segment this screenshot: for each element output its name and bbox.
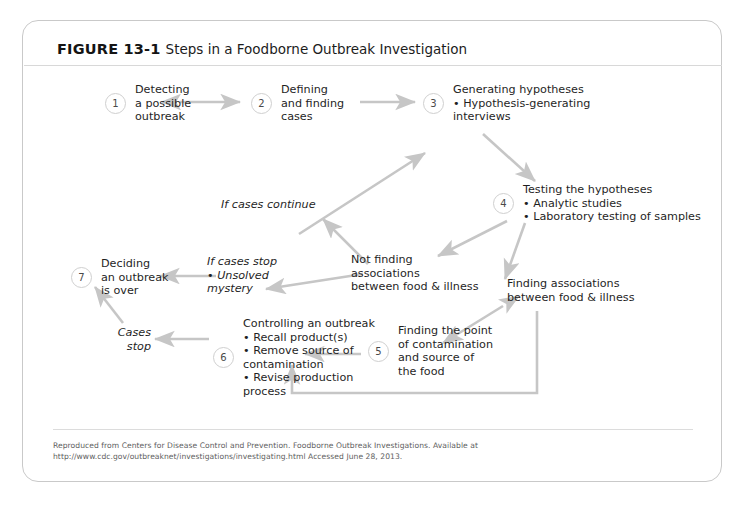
node-2[interactable]: 2 Defining and finding cases [251, 83, 344, 124]
node-4-number: 4 [493, 193, 514, 214]
node-3-label: Generating hypotheses • Hypothesis-gener… [453, 83, 590, 124]
node-1-number: 1 [105, 93, 126, 114]
flowchart-diagram: 1 Detecting a possible outbreak 2 Defini… [23, 21, 723, 483]
label-if-cases-continue: If cases continue [221, 198, 316, 212]
node-1-label: Detecting a possible outbreak [135, 83, 191, 124]
figure-panel: FIGURE 13-1Steps in a Foodborne Outbreak… [22, 20, 722, 482]
node-6[interactable]: 6 Controlling an outbreak • Recall produ… [213, 317, 375, 399]
node-3[interactable]: 3 Generating hypotheses • Hypothesis-gen… [423, 83, 590, 124]
edge-continue-3 [299, 153, 425, 234]
node-5[interactable]: 5 Finding the point of contamination and… [368, 324, 493, 378]
node-6-label: Controlling an outbreak • Recall product… [243, 317, 375, 399]
node-6-number: 6 [213, 347, 234, 368]
node-7[interactable]: 7 Deciding an outbreak is over [71, 257, 169, 298]
edge-4-finding [505, 223, 525, 279]
node-2-label: Defining and finding cases [281, 83, 344, 124]
node-7-number: 7 [71, 267, 92, 288]
figure-source-citation: Reproduced from Centers for Disease Cont… [53, 440, 701, 462]
node-7-label: Deciding an outbreak is over [101, 257, 169, 298]
node-4-label: Testing the hypotheses • Analytic studie… [523, 183, 701, 224]
label-finding-associations: Finding associations between food & illn… [507, 277, 634, 304]
edge-4-not-finding [438, 221, 507, 256]
label-not-finding-associations: Not finding associations between food & … [351, 253, 478, 294]
edge-3-4 [483, 134, 535, 181]
node-3-number: 3 [423, 93, 444, 114]
footer-divider [53, 429, 693, 430]
node-5-label: Finding the point of contamination and s… [398, 324, 493, 378]
label-if-cases-stop: If cases stop • Unsolved mystery [207, 255, 277, 296]
node-2-number: 2 [251, 93, 272, 114]
node-1[interactable]: 1 Detecting a possible outbreak [105, 83, 191, 124]
node-4[interactable]: 4 Testing the hypotheses • Analytic stud… [493, 183, 701, 224]
label-cases-stop: Cases stop [85, 326, 151, 353]
edge-not-finding-stop [266, 274, 363, 289]
